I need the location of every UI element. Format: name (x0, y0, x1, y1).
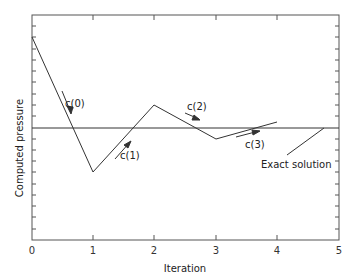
annotation-c3: c(3) (245, 139, 265, 150)
x-tick-5: 5 (336, 245, 342, 256)
y-axis-label: Computed pressure (14, 99, 25, 197)
annotation-c1: c(1) (120, 150, 140, 161)
annotation-c2: c(2) (187, 101, 207, 112)
annotation-exact-solution: Exact solution (261, 159, 332, 170)
x-tick-2: 2 (151, 245, 157, 256)
x-axis-label: Iteration (164, 263, 206, 274)
x-tick-1: 1 (90, 245, 96, 256)
x-tick-3: 3 (213, 245, 219, 256)
x-tick-0: 0 (29, 245, 35, 256)
annotation-c0: c(0) (65, 98, 85, 109)
pressure-iteration-chart: c(0) c(1) c(2) c(3) Exact solution 0 1 2… (0, 0, 355, 277)
x-tick-4: 4 (274, 245, 280, 256)
